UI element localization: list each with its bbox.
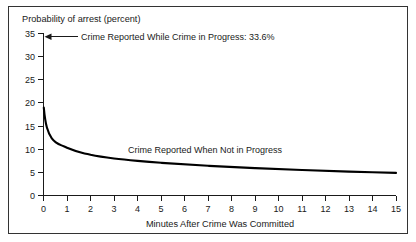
x-tick-label: 2 bbox=[88, 204, 93, 214]
chart-figure: Probability of arrest (percent) 35 30 25… bbox=[0, 0, 416, 242]
annotation-crime-in-progress: Crime Reported While Crime in Progress: … bbox=[81, 32, 275, 42]
x-tick-label: 8 bbox=[229, 204, 234, 214]
x-tick-label: 9 bbox=[252, 204, 257, 214]
x-tick-label: 4 bbox=[135, 204, 140, 214]
y-axis-ticks bbox=[38, 34, 44, 196]
y-tick-label: 0 bbox=[30, 191, 35, 201]
x-tick-label: 14 bbox=[367, 204, 377, 214]
x-tick-label: 12 bbox=[320, 204, 330, 214]
arrest-probability-curve bbox=[44, 108, 396, 173]
x-tick-label: 3 bbox=[111, 204, 116, 214]
x-tick-label: 10 bbox=[273, 204, 283, 214]
y-axis-tick-labels: 35 30 25 20 15 10 5 0 bbox=[25, 29, 35, 201]
y-tick-label: 35 bbox=[25, 29, 35, 39]
x-axis-tick-labels: 0 1 2 3 4 5 6 7 8 9 10 11 12 13 14 15 bbox=[41, 204, 401, 214]
x-tick-label: 0 bbox=[41, 204, 46, 214]
y-tick-label: 5 bbox=[30, 168, 35, 178]
left-arrow-icon bbox=[45, 34, 52, 40]
x-tick-label: 11 bbox=[297, 204, 306, 214]
in-progress-annotation-leader bbox=[45, 34, 79, 40]
y-tick-label: 15 bbox=[25, 122, 35, 132]
x-axis-caption: Minutes After Crime Was Committed bbox=[146, 219, 294, 229]
y-tick-label: 30 bbox=[25, 52, 35, 62]
annotation-crime-not-in-progress: Crime Reported When Not in Progress bbox=[128, 145, 283, 155]
y-tick-label: 10 bbox=[25, 145, 35, 155]
x-tick-label: 5 bbox=[158, 204, 163, 214]
x-tick-label: 7 bbox=[205, 204, 210, 214]
y-tick-label: 20 bbox=[25, 98, 35, 108]
y-axis-title: Probability of arrest (percent) bbox=[22, 14, 140, 24]
x-tick-label: 15 bbox=[391, 204, 401, 214]
y-tick-label: 25 bbox=[25, 75, 35, 85]
x-axis-ticks bbox=[44, 196, 397, 202]
x-tick-label: 1 bbox=[64, 204, 69, 214]
chart-canvas: Probability of arrest (percent) 35 30 25… bbox=[0, 0, 416, 242]
x-tick-label: 13 bbox=[344, 204, 354, 214]
x-tick-label: 6 bbox=[182, 204, 187, 214]
